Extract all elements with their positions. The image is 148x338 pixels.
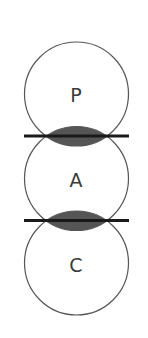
label-p: P [70, 84, 81, 106]
pac-diagram: P A C [0, 0, 148, 338]
label-c: C [69, 254, 82, 276]
label-a: A [70, 169, 83, 191]
